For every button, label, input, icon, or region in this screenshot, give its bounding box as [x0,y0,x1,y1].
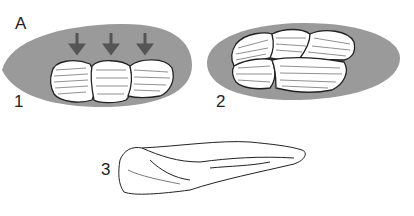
item-2-label: 2 [216,92,225,112]
diagram-canvas [0,0,414,216]
panel-label: A [15,14,26,34]
item-3-label: 3 [101,160,110,180]
item-3-drawing [119,142,305,195]
item-1-label: 1 [14,92,23,112]
item-1-drawing [2,24,192,107]
item-2-drawing [207,23,400,100]
